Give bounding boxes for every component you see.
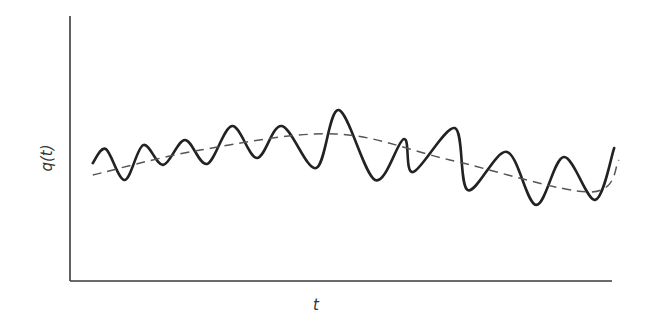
series-signal-line: [93, 110, 614, 205]
x-axis-label: t: [313, 296, 320, 314]
y-axis-label: q(t): [38, 144, 56, 171]
chart: t q(t): [0, 0, 652, 323]
